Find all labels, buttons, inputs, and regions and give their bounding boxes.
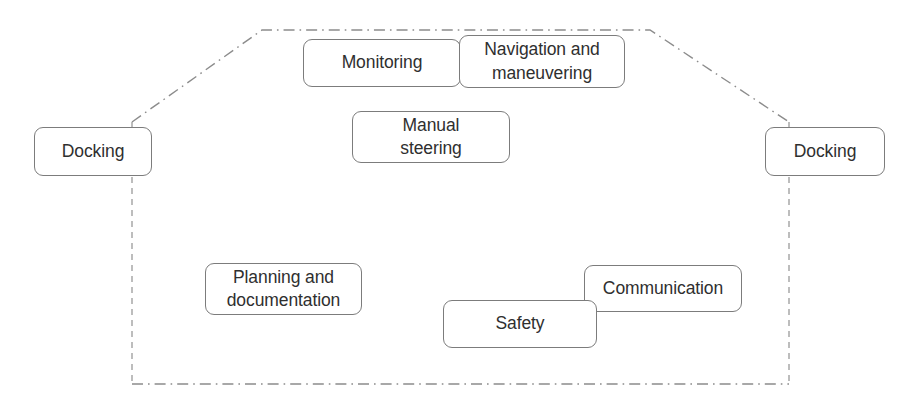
task-box-label: Communication <box>591 277 735 300</box>
task-box-label: Safety <box>450 312 590 335</box>
task-box-label: Manual steering <box>359 114 503 160</box>
task-box-label: Docking <box>41 140 145 163</box>
task-box-monitoring[interactable]: Monitoring <box>303 39 461 87</box>
task-box-docking-right[interactable]: Docking <box>765 127 885 176</box>
task-box-label: Docking <box>772 140 878 163</box>
task-box-label: Monitoring <box>310 51 454 74</box>
task-box-docking-left[interactable]: Docking <box>34 127 152 176</box>
diagram-canvas: Docking Monitoring Navigation and maneuv… <box>0 0 916 413</box>
task-box-planning-and-documentation[interactable]: Planning and documentation <box>205 263 362 315</box>
task-box-communication[interactable]: Communication <box>584 265 742 312</box>
task-box-navigation-and-maneuvering[interactable]: Navigation and maneuvering <box>459 35 625 88</box>
task-box-manual-steering[interactable]: Manual steering <box>352 111 510 163</box>
task-box-safety[interactable]: Safety <box>443 300 597 348</box>
task-box-label: Planning and documentation <box>212 266 355 312</box>
task-box-label: Navigation and maneuvering <box>466 38 618 84</box>
